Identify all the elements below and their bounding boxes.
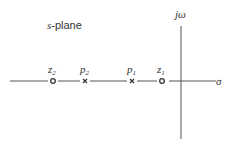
imag-axis-label: jω [173,8,186,20]
plane-title: s-plane [47,19,82,31]
real-axis-label: σ [216,75,222,87]
svg-text:z1: z1 [156,63,165,77]
zero-marker-icon [51,79,56,84]
zero-marker-icon [160,79,165,84]
s-plane-diagram: s-plane jω σ z2 p2 p1 z1 [0,0,231,146]
svg-text:p2: p2 [79,63,90,77]
pole-p1: p1 [126,63,137,85]
svg-text:z2: z2 [47,63,56,77]
zero-z2: z2 [47,63,58,85]
pole-p2: p2 [79,63,90,85]
zero-z1: z1 [156,63,169,85]
svg-text:p1: p1 [126,63,136,77]
